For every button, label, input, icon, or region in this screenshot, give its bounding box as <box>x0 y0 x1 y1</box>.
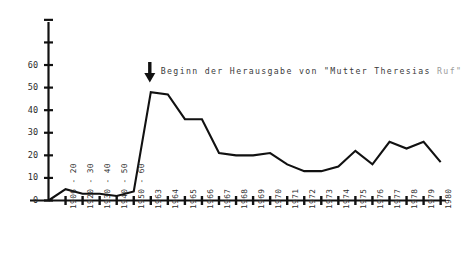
x-axis-tick-label: 1968 <box>240 188 249 208</box>
x-axis-tick-label: 1930 - 40 <box>103 163 112 209</box>
x-axis-tick-label: 1940 - 50 <box>120 163 129 209</box>
x-axis-tick-label: 1977 <box>393 188 402 208</box>
y-axis-tick-label: 40 <box>19 105 39 115</box>
x-axis-tick-label: 1970 <box>274 188 283 208</box>
x-axis-tick-label: 1972 <box>308 188 317 208</box>
x-axis-tick-label: 1976 <box>376 188 385 208</box>
x-axis-tick-label: 1969 <box>257 188 266 208</box>
x-axis-tick-label: 1980 <box>444 188 453 208</box>
x-axis-tick-label: 1971 <box>291 188 300 208</box>
down-arrow-icon <box>144 62 155 83</box>
y-axis-tick-label: 50 <box>19 82 39 92</box>
y-axis-tick-label: 20 <box>19 150 39 160</box>
chart-annotation-label: Beginn der Herausgabe von "Mutter Theres… <box>161 66 462 76</box>
y-axis-tick-label: 30 <box>19 127 39 137</box>
x-axis-tick-label: 1920 - 30 <box>86 163 95 209</box>
x-axis-tick-label: 1965 <box>189 188 198 208</box>
x-axis-tick-label: 1978 <box>410 188 419 208</box>
y-axis-tick-label: 60 <box>19 60 39 70</box>
x-axis-tick-label: 1950 - 60 <box>137 163 146 209</box>
x-axis-tick-label: 1966 <box>206 188 215 208</box>
annotation-faded-word: Ruf" <box>437 66 462 76</box>
x-axis-tick-label: 1973 <box>325 188 334 208</box>
x-axis-tick-label: 1979 <box>427 188 436 208</box>
y-axis-tick-label: 0 <box>19 195 39 205</box>
y-axis-tick-label: 10 <box>19 172 39 182</box>
x-axis-tick-label: 1963 <box>154 188 163 208</box>
x-axis-tick-label: 1967 <box>223 188 232 208</box>
x-axis-tick-label: 1906 - 20 <box>69 163 78 209</box>
x-axis-tick-label: 1975 <box>359 188 368 208</box>
x-axis-tick-label: 1974 <box>342 188 351 208</box>
x-axis-tick-label: 1964 <box>171 188 180 208</box>
